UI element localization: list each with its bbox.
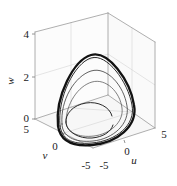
axis-title-u: u <box>131 154 137 166</box>
axis-title-v: v <box>43 149 48 161</box>
phase-portrait-3d-plot: 4 2 0 5 0 -5 -5 0 5 w v u <box>0 0 177 186</box>
tickmark-u-0 <box>124 140 125 143</box>
ztick-label-4: 4 <box>24 28 30 40</box>
ytick-label-5: 5 <box>24 123 30 135</box>
xtick-label-neg5: -5 <box>99 159 109 171</box>
xtick-label-5: 5 <box>161 128 167 140</box>
figure-container: 4 2 0 5 0 -5 -5 0 5 w v u <box>0 0 177 186</box>
ztick-label-2: 2 <box>24 71 30 83</box>
axis-title-w: w <box>4 77 16 85</box>
xtick-label-0: 0 <box>124 145 130 157</box>
ytick-label-neg5: -5 <box>81 159 91 171</box>
ytick-label-0: 0 <box>52 140 58 152</box>
